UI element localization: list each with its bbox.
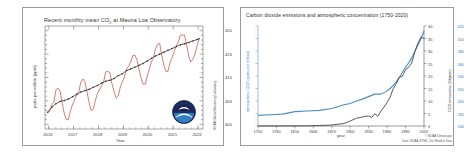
page-title: Recent monthly mean CO2 at Mauna Loa Obs…: [44, 17, 181, 25]
y-axis-label: parts per million (ppm): [32, 65, 37, 108]
left-y-tick-280: 280: [246, 112, 464, 117]
y-tick-400: 400: [33, 122, 232, 127]
x-tick-2020: 2020: [420, 129, 429, 134]
x-tick-2020: 2020: [143, 132, 152, 137]
y-tick-405: 405: [33, 99, 232, 104]
y-tick-410: 410: [33, 75, 232, 80]
chart-title: Carbon dioxide emissions and atmospheric…: [246, 13, 408, 18]
x-tick-1930: 1930: [364, 129, 373, 134]
noaa-credit-text: NOAA Global Monitoring Laboratory: [213, 81, 217, 130]
x-tick-2016: 2016: [43, 132, 52, 137]
x-axis-label: year: [337, 133, 345, 138]
x-tick-2021: 2021: [168, 132, 177, 137]
y-tick-420: 420: [33, 28, 232, 33]
noaa-logo-svg: [172, 100, 196, 124]
credit-line-2: Data: NOAA, ETHZ, Our World in Data: [402, 139, 452, 143]
credit-line-1: © NOAA Climate.gov: [425, 134, 452, 138]
mauna-loa-co2-panel: Recent monthly mean CO2 at Mauna Loa Obs…: [0, 0, 232, 153]
left-y-axis-label: atmospheric CO2 (parts per million): [245, 51, 250, 112]
x-tick-1780: 1780: [272, 129, 281, 134]
x-tick-1870: 1870: [327, 129, 336, 134]
right-y-tick-10: 10: [428, 99, 432, 104]
right-y-tick-35: 35: [428, 37, 432, 42]
right-y-axis-label: CO2 emissions (Gt/year): [447, 69, 452, 112]
x-tick-1840: 1840: [309, 129, 318, 134]
right-y-tick-0: 0: [428, 124, 430, 129]
right-y-tick-40: 40: [428, 24, 432, 29]
x-tick-2019: 2019: [118, 132, 127, 137]
x-tick-1810: 1810: [290, 129, 299, 134]
x-tick-1990: 1990: [401, 129, 410, 134]
right-y-tick-25: 25: [428, 62, 432, 67]
co2-emissions-concentration-panel: Carbon dioxide emissions and atmospheric…: [232, 0, 464, 153]
x-axis-label: Year: [116, 138, 125, 143]
right-y-tick-5: 5: [428, 112, 430, 117]
x-tick-1900: 1900: [346, 129, 355, 134]
x-tick-1960: 1960: [383, 129, 392, 134]
x-tick-2018: 2018: [93, 132, 102, 137]
screenshot-page: Recent monthly mean CO2 at Mauna Loa Obs…: [0, 0, 464, 153]
right-y-tick-20: 20: [428, 74, 432, 79]
x-tick-2022: 2022: [193, 132, 202, 137]
right-y-tick-15: 15: [428, 87, 432, 92]
noaa-logo: [172, 100, 196, 124]
right-y-tick-30: 30: [428, 49, 432, 54]
y-tick-415: 415: [33, 52, 232, 57]
x-tick-1750: 1750: [254, 129, 263, 134]
x-tick-2017: 2017: [68, 132, 77, 137]
